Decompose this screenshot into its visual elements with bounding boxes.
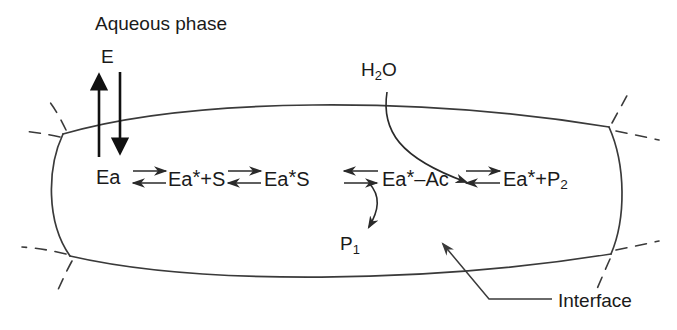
product1-label-letter: P	[340, 233, 353, 254]
species-eas-post: S	[296, 168, 309, 190]
lower-interface-curve	[70, 254, 611, 277]
dash-bottom-right-out	[616, 241, 659, 250]
species-activated-enzyme-plus-substrate: Ea*+S	[168, 160, 225, 196]
species-ea-p2-pre: Ea	[503, 168, 527, 190]
species-acyl-enzyme: Ea*–Ac	[382, 160, 449, 196]
species-ea-p2-subscript: 2	[560, 177, 568, 192]
product1-label: P1	[340, 234, 360, 257]
interface-label: Interface	[558, 291, 632, 310]
dash-top-left-out	[22, 131, 60, 137]
species-ea-s-pre: Ea	[168, 168, 192, 190]
product1-label-subscript: 1	[353, 242, 360, 257]
species-ea: Ea	[96, 160, 120, 194]
reaction-scheme-figure: Aqueous phase E H2O P1 Interface Ea Ea*+…	[0, 0, 677, 330]
dash-bottom-left-down	[57, 261, 72, 292]
species-ea-s-post: +S	[200, 168, 225, 190]
reaction-scheme-row: Ea Ea*+S Ea*S Ea*–Ac Ea*+P2	[0, 160, 677, 194]
enzyme-label: E	[101, 47, 114, 66]
species-ea-text: Ea	[96, 166, 120, 188]
species-ea-ac-pre: Ea	[382, 168, 406, 190]
water-label-oxygen: O	[382, 59, 397, 80]
species-activated-enzyme-plus-product2: Ea*+P2	[503, 160, 568, 202]
water-label-element: H	[361, 59, 375, 80]
enzyme-exchange-arrows	[99, 72, 120, 157]
species-ea-p2-post: +P	[535, 168, 560, 190]
dash-top-left-up	[49, 101, 66, 130]
water-label: H2O	[361, 60, 397, 83]
upper-interface-curve	[63, 105, 609, 134]
dash-top-right-up	[612, 92, 629, 123]
dash-top-right-out	[616, 131, 659, 140]
species-eas-pre: Ea	[264, 168, 288, 190]
dash-bottom-left-out	[22, 247, 66, 254]
water-label-subscript: 2	[375, 68, 382, 83]
aqueous-phase-label: Aqueous phase	[95, 14, 227, 33]
species-ea-ac-post: –Ac	[414, 168, 448, 190]
left-membrane-edge	[51, 134, 70, 256]
dash-bottom-right-down	[596, 259, 610, 291]
species-activated-enzyme-substrate-complex: Ea*S	[264, 160, 310, 196]
